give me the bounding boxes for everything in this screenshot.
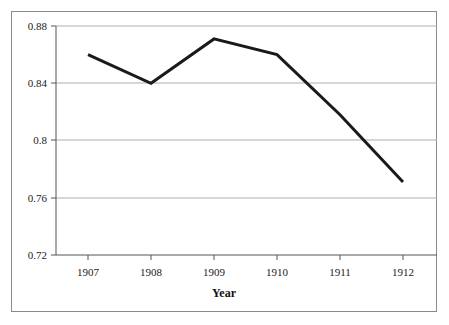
y-axis-label-4: 0.72 [28,249,47,261]
y-axis-ticks [51,26,56,255]
x-axis-ticks [88,255,403,260]
x-axis-label-1907: 1907 [77,266,100,278]
x-axis-title: Year [212,286,237,300]
x-axis-label-1910: 1910 [266,266,289,278]
x-axis-label-1909: 1909 [203,266,226,278]
y-axis-label-0: 0.88 [28,20,48,32]
data-series-line [88,39,403,182]
chart-figure: 0.88 0.84 0.8 0.76 0.72 1907 1908 1909 1… [0,0,449,325]
x-axis-label-1908: 1908 [140,266,163,278]
x-axis-label-1912: 1912 [392,266,414,278]
line-chart: 0.88 0.84 0.8 0.76 0.72 1907 1908 1909 1… [0,0,449,325]
y-axis-label-2: 0.8 [33,134,47,146]
y-axis-label-1: 0.84 [28,77,48,89]
y-axis-label-3: 0.76 [28,192,48,204]
gridlines-horizontal [56,26,437,198]
y-axis-labels: 0.88 0.84 0.8 0.76 0.72 [28,20,48,261]
x-axis-label-1911: 1911 [329,266,351,278]
x-axis-labels: 1907 1908 1909 1910 1911 1912 [77,266,414,278]
